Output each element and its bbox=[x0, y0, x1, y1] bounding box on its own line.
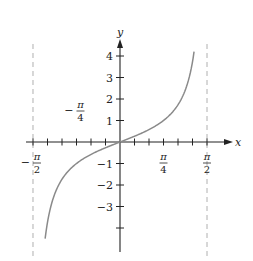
tangent-chart: 4321−1−2−3π2−π4−π4π2 x y bbox=[0, 0, 253, 261]
svg-text:4: 4 bbox=[77, 112, 83, 123]
y-tick-label: 4 bbox=[106, 50, 113, 63]
svg-text:π: π bbox=[33, 151, 41, 162]
svg-text:−: − bbox=[21, 156, 30, 169]
x-tick-label: π4− bbox=[64, 99, 84, 123]
y-tick-label: 1 bbox=[106, 115, 113, 128]
svg-text:π: π bbox=[76, 99, 84, 110]
y-tick-label: −3 bbox=[97, 201, 113, 214]
y-tick-label: 2 bbox=[106, 93, 113, 106]
y-axis-arrow-icon bbox=[117, 39, 123, 48]
svg-text:π: π bbox=[203, 151, 211, 162]
y-tick-label: −2 bbox=[97, 179, 113, 192]
svg-text:π: π bbox=[159, 151, 167, 162]
x-tick-label: π2 bbox=[203, 151, 211, 175]
x-tick-label: π2− bbox=[21, 151, 41, 175]
y-axis-label: y bbox=[116, 26, 124, 39]
svg-text:−: − bbox=[64, 104, 73, 117]
axes bbox=[26, 39, 233, 252]
x-tick-label: π4 bbox=[159, 151, 167, 175]
x-axis-arrow-icon bbox=[224, 139, 233, 145]
x-axis-label: x bbox=[235, 136, 242, 149]
svg-text:2: 2 bbox=[204, 164, 210, 175]
y-tick-label: 3 bbox=[106, 72, 113, 85]
y-tick-label: −1 bbox=[97, 158, 113, 171]
svg-text:2: 2 bbox=[34, 164, 40, 175]
svg-text:4: 4 bbox=[160, 164, 166, 175]
tick-labels: 4321−1−2−3π2−π4−π4π2 bbox=[21, 50, 211, 214]
